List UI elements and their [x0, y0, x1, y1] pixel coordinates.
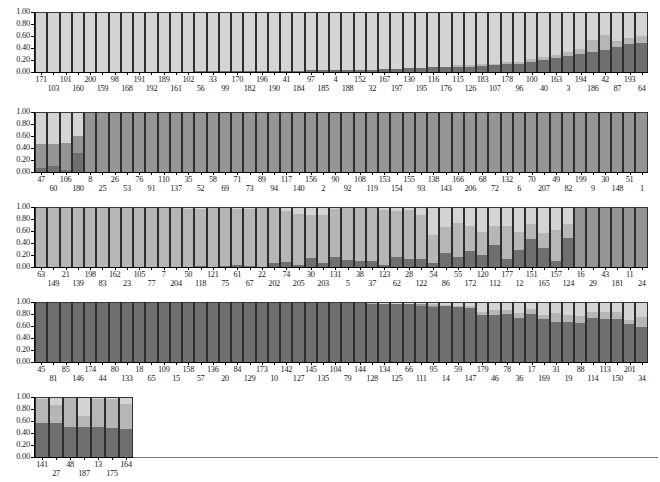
x-tick-label: 127 [293, 375, 305, 383]
ancestry-segment-cluster3 [489, 226, 499, 246]
ancestry-segment-cluster2 [134, 112, 144, 172]
ancestry-segment-cluster3 [502, 226, 512, 258]
x-tick-label: 31 [552, 366, 560, 374]
individual-bar [207, 302, 219, 362]
x-tick-label: 144 [354, 366, 366, 374]
ancestry-segment-cluster3 [440, 227, 450, 253]
ancestry-segment-cluster3 [453, 223, 463, 257]
ancestry-segment-cluster2 [575, 207, 585, 267]
ancestry-segment-cluster4 [526, 302, 536, 309]
ancestry-segment-cluster4 [428, 207, 438, 235]
x-tick-label: 25 [99, 185, 107, 193]
individual-bar [550, 112, 562, 172]
x-tick-label: 95 [430, 366, 438, 374]
ancestry-segment-cluster4 [281, 12, 291, 71]
ancestry-segment-cluster3 [416, 215, 426, 258]
individual-bar [305, 112, 317, 172]
ancestry-segment-cluster3 [563, 315, 573, 322]
x-tick-label: 201 [624, 366, 636, 374]
x-tick-label: 188 [342, 85, 354, 93]
ancestry-segment-cluster4 [551, 207, 561, 230]
x-tick-label: 3 [566, 85, 570, 93]
individual-bar [476, 112, 488, 172]
ancestry-segment-cluster4 [477, 207, 487, 232]
y-tick-label: 0.60 [16, 417, 30, 425]
individual-bar [390, 302, 402, 362]
x-tick-label: 12 [515, 280, 523, 288]
ancestry-segment-cluster1 [612, 319, 622, 362]
x-tick-label: 103 [48, 85, 60, 93]
individual-bar [403, 302, 415, 362]
individual-bar [501, 207, 513, 267]
x-tick-label: 66 [405, 366, 413, 374]
individual-bar [574, 12, 586, 72]
ancestry-segment-cluster4 [110, 12, 120, 72]
x-tick-label: 10 [270, 375, 278, 383]
x-tick-label: 149 [48, 280, 60, 288]
ancestry-segment-cluster4 [61, 12, 71, 72]
individual-bar [329, 302, 341, 362]
x-tick-label: 84 [233, 366, 241, 374]
individual-bar [452, 207, 464, 267]
individual-bar [60, 207, 72, 267]
ancestry-segment-cluster1 [636, 327, 646, 362]
admixture-panel-2: 1.000.800.600.400.200.004760106180825265… [0, 106, 660, 202]
individual-bar [415, 302, 427, 362]
x-tick-label: 199 [575, 176, 587, 184]
ancestry-segment-cluster2 [85, 112, 95, 172]
individual-bar [72, 112, 84, 172]
x-tick-label: 191 [133, 76, 145, 84]
ancestry-segment-cluster4 [134, 12, 144, 72]
individual-bar [268, 112, 280, 172]
x-tick-label: 167 [379, 76, 391, 84]
ancestry-segment-cluster2 [73, 136, 83, 153]
x-tick-label: 63 [37, 271, 45, 279]
individual-bar [611, 302, 623, 362]
ancestry-segment-cluster4 [48, 12, 58, 72]
ancestry-segment-cluster4 [208, 12, 218, 71]
ancestry-segment-cluster2 [636, 207, 646, 267]
x-tick-label: 41 [282, 76, 290, 84]
individual-bar [537, 112, 549, 172]
individual-bar [525, 302, 537, 362]
x-tick-label: 24 [638, 280, 646, 288]
x-tick-label: 49 [552, 176, 560, 184]
x-tick-label: 115 [452, 76, 463, 84]
ancestry-segment-cluster1 [281, 302, 291, 362]
individual-bar [243, 302, 255, 362]
ancestry-segment-cluster2 [526, 112, 536, 172]
individual-bar [109, 12, 121, 72]
ancestry-segment-cluster1 [600, 319, 610, 362]
bar-group-panel-5 [35, 397, 133, 457]
individual-bar [635, 207, 647, 267]
ancestry-segment-cluster2 [514, 112, 524, 172]
ancestry-segment-cluster4 [489, 12, 499, 64]
ancestry-segment-cluster4 [48, 112, 58, 144]
ancestry-segment-cluster1 [73, 302, 83, 362]
ancestry-segment-cluster2 [61, 143, 71, 171]
x-tick-label: 112 [489, 280, 500, 288]
x-tick-label: 15 [172, 375, 180, 383]
individual-bar [476, 12, 488, 72]
individual-bar [317, 12, 329, 72]
admixture-panel-5: 1.000.800.600.400.200.001412748187131751… [0, 391, 660, 482]
individual-bar [599, 12, 611, 72]
y-tick-label: 0.40 [16, 144, 30, 152]
x-tick-label: 194 [575, 76, 587, 84]
x-tick-label: 158 [182, 366, 194, 374]
x-tick-label: 130 [403, 76, 415, 84]
individual-bar [256, 207, 268, 267]
ancestry-segment-cluster3 [146, 208, 156, 267]
ancestry-segment-cluster2 [110, 112, 120, 172]
ancestry-segment-cluster3 [563, 224, 573, 237]
ancestry-segment-cluster4 [195, 12, 205, 71]
individual-bar [317, 302, 329, 362]
ancestry-segment-cluster1 [379, 304, 389, 362]
individual-bar [182, 12, 194, 72]
individual-bar [170, 112, 182, 172]
y-tick-label: 1.00 [16, 298, 30, 306]
ancestry-segment-cluster2 [587, 207, 597, 267]
ancestry-segment-cluster4 [85, 12, 95, 72]
admixture-panel-4: 1.000.800.600.400.200.004581851461744480… [0, 296, 660, 392]
individual-bar [586, 302, 598, 362]
